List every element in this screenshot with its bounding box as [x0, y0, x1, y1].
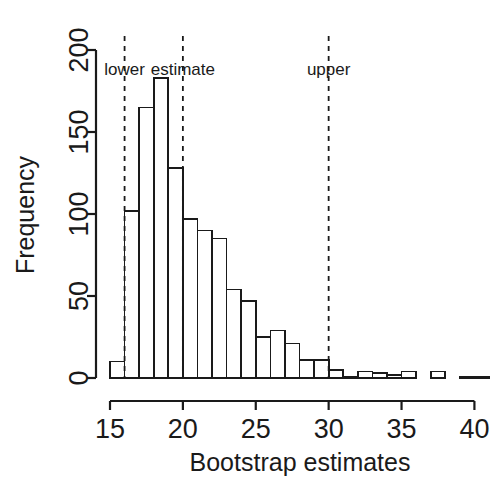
histogram-bar [183, 219, 198, 378]
y-axis-tick-label: 150 [64, 109, 94, 154]
histogram-bar [125, 211, 140, 378]
histogram-bar [343, 376, 358, 378]
histogram-bar [212, 239, 227, 378]
histogram-bar [139, 107, 154, 378]
x-axis-tick-label: 15 [95, 414, 125, 444]
x-axis-title: Bootstrap estimates [190, 448, 411, 476]
histogram-bars [110, 78, 489, 378]
x-axis-tick-label: 30 [314, 414, 344, 444]
x-axis-tick-label: 40 [459, 414, 489, 444]
histogram-bar [372, 373, 387, 378]
histogram-bar [300, 360, 315, 378]
histogram-bar [241, 301, 256, 378]
reference-label-upper: upper [307, 60, 351, 79]
histogram-bar [110, 362, 125, 378]
y-axis-tick-label: 50 [64, 281, 94, 311]
reference-label-estimate: estimate [151, 60, 215, 79]
histogram-bar [270, 330, 285, 378]
histogram-bar [168, 168, 183, 378]
x-axis-tick-label: 25 [241, 414, 271, 444]
y-axis-tick-label: 0 [64, 370, 94, 385]
histogram-bar [387, 375, 402, 378]
x-axis-tick-label: 20 [168, 414, 198, 444]
histogram-bar [329, 370, 344, 378]
y-axis-title: Frequency [11, 155, 39, 274]
histogram-bar [227, 289, 242, 378]
reference-line-labels: lowerestimateupper [104, 60, 350, 79]
y-axis-tick-label: 100 [64, 191, 94, 236]
histogram-bar [402, 371, 417, 378]
reference-label-lower: lower [104, 60, 145, 79]
histogram-bar [197, 230, 212, 378]
histogram-bar [285, 344, 300, 378]
histogram-bar [460, 376, 475, 378]
histogram-bar [256, 337, 271, 378]
histogram-bar [431, 371, 446, 378]
histogram-bar [154, 78, 169, 378]
histogram-bar [358, 371, 373, 378]
y-axis: 050100150200 [64, 27, 96, 385]
histogram-bar [314, 360, 329, 378]
histogram-bar [474, 376, 489, 378]
y-axis-tick-label: 200 [64, 27, 94, 72]
x-axis-tick-label: 35 [387, 414, 417, 444]
x-axis: 152025303540 [95, 401, 489, 444]
histogram-plot: 050100150200 152025303540 lowerestimateu… [0, 0, 501, 492]
histogram-figure: 050100150200 152025303540 lowerestimateu… [0, 0, 501, 492]
